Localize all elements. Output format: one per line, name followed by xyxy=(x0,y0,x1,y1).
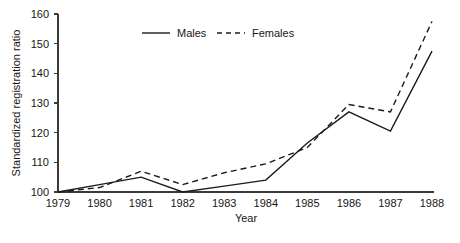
x-tick-label: 1980 xyxy=(87,197,111,209)
y-axis-ticks: 100110120130140150160 xyxy=(31,8,58,198)
legend-label-males: Males xyxy=(177,27,207,39)
y-axis-title: Standardized registration ratio xyxy=(10,30,22,177)
x-tick-label: 1988 xyxy=(420,197,444,209)
x-tick-label: 1981 xyxy=(129,197,153,209)
x-axis-ticks: 1979198019811982198319841985198619871988 xyxy=(46,197,444,209)
x-tick-label: 1987 xyxy=(378,197,402,209)
x-axis-title: Year xyxy=(235,212,258,224)
x-tick-label: 1983 xyxy=(212,197,236,209)
x-tick-label: 1979 xyxy=(46,197,70,209)
y-tick-label: 110 xyxy=(31,156,49,168)
chart-legend: Males Females xyxy=(142,27,295,39)
x-tick-label: 1982 xyxy=(170,197,194,209)
line-chart: 100110120130140150160 197919801981198219… xyxy=(0,0,460,243)
y-tick-label: 130 xyxy=(31,97,49,109)
chart-svg: 100110120130140150160 197919801981198219… xyxy=(0,0,460,243)
series-line-females xyxy=(58,21,432,192)
x-tick-label: 1984 xyxy=(254,197,278,209)
y-tick-label: 160 xyxy=(31,8,49,20)
series-line-males xyxy=(58,51,432,192)
x-tick-label: 1985 xyxy=(295,197,319,209)
y-tick-label: 140 xyxy=(31,67,49,79)
y-tick-label: 150 xyxy=(31,38,49,50)
legend-label-females: Females xyxy=(252,27,295,39)
x-tick-label: 1986 xyxy=(337,197,361,209)
y-tick-label: 120 xyxy=(31,127,49,139)
